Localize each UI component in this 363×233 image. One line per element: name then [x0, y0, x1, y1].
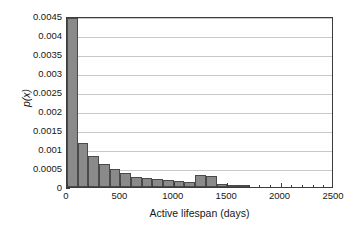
y-tick-label: 0.0045	[0, 12, 62, 22]
x-minor-tick-mark	[78, 185, 79, 187]
y-tick-label: 0.004	[0, 31, 62, 41]
x-minor-tick-mark	[206, 185, 207, 187]
x-minor-tick-mark	[323, 185, 324, 187]
histogram-bar	[184, 182, 195, 187]
y-tick-label: 0.0035	[0, 50, 62, 60]
histogram-bar	[67, 18, 78, 187]
histogram-bar	[120, 173, 131, 187]
x-tick-label: 1000	[143, 190, 203, 201]
x-tick-mark	[281, 183, 282, 187]
histogram-bar	[227, 185, 238, 187]
histogram-bar	[142, 178, 153, 187]
x-tick-mark	[120, 183, 121, 187]
histogram-bar	[78, 143, 89, 187]
histogram-bar	[88, 156, 99, 187]
x-minor-tick-mark	[152, 185, 153, 187]
x-tick-label: 2000	[250, 190, 310, 201]
x-axis-label: Active lifespan (days)	[66, 207, 333, 219]
y-tick-label: 0.0005	[0, 164, 62, 174]
x-tick-label: 500	[89, 190, 149, 201]
histogram-bar	[174, 181, 185, 187]
x-minor-tick-mark	[217, 185, 218, 187]
x-minor-tick-mark	[131, 185, 132, 187]
x-minor-tick-mark	[249, 185, 250, 187]
histogram-bars	[67, 18, 332, 187]
x-tick-label: 2500	[303, 190, 363, 201]
histogram-bar	[195, 175, 206, 187]
histogram-bar	[152, 179, 163, 187]
histogram-bar	[163, 180, 174, 187]
histogram-bar	[110, 169, 121, 187]
y-tick-label: 0.001	[0, 145, 62, 155]
x-minor-tick-mark	[184, 185, 185, 187]
x-minor-tick-mark	[99, 185, 100, 187]
x-minor-tick-mark	[142, 185, 143, 187]
x-minor-tick-mark	[302, 185, 303, 187]
x-tick-mark	[227, 183, 228, 187]
x-axis-ticklabels: 05001000150020002500	[0, 190, 363, 206]
x-minor-tick-mark	[259, 185, 260, 187]
x-tick-mark	[67, 183, 68, 187]
histogram-bar	[131, 177, 142, 187]
histogram-figure: 00.00050.0010.00150.0020.00250.0030.0035…	[0, 0, 363, 233]
histogram-bar	[206, 176, 217, 187]
x-minor-tick-mark	[313, 185, 314, 187]
x-tick-label: 1500	[196, 190, 256, 201]
x-minor-tick-mark	[195, 185, 196, 187]
x-minor-tick-mark	[270, 185, 271, 187]
x-minor-tick-mark	[291, 185, 292, 187]
x-tick-label: 0	[36, 190, 96, 201]
x-minor-tick-mark	[238, 185, 239, 187]
x-minor-tick-mark	[110, 185, 111, 187]
plot-area	[66, 17, 333, 188]
histogram-bar	[238, 185, 249, 187]
x-minor-tick-mark	[88, 185, 89, 187]
histogram-bar	[217, 184, 228, 187]
y-tick-mark	[66, 188, 70, 189]
histogram-bar	[99, 164, 110, 187]
y-axis-label: p(x)	[20, 68, 32, 128]
x-minor-tick-mark	[163, 185, 164, 187]
x-tick-mark	[174, 183, 175, 187]
